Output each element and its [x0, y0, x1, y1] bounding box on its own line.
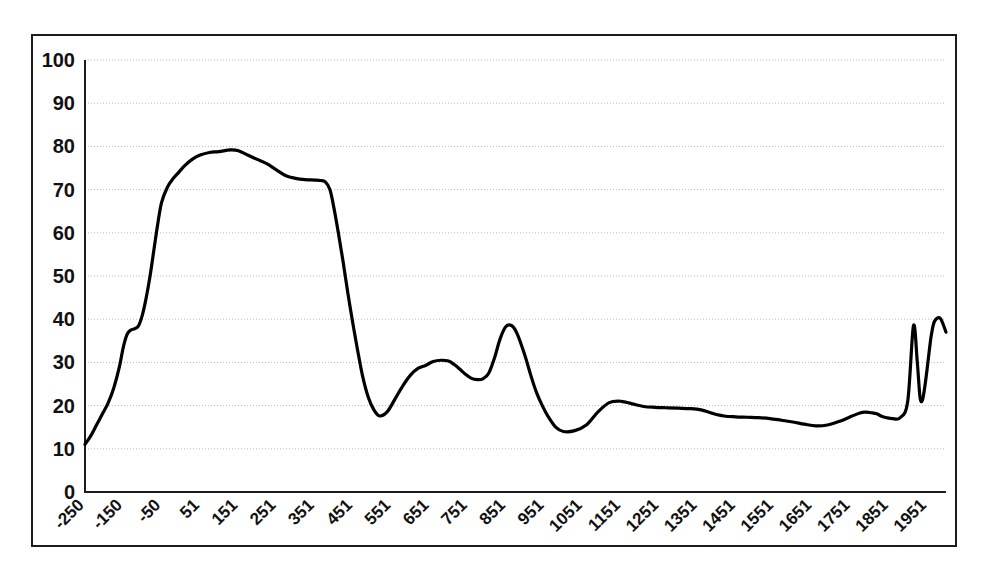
y-tick-label-10: 10 — [53, 438, 75, 460]
x-tick-label-151: 151 — [208, 495, 241, 528]
x-tick-label--250: -250 — [50, 495, 87, 532]
x-tick-label-251: 251 — [246, 495, 279, 528]
y-tick-label-60: 60 — [53, 222, 75, 244]
x-tick-label-1151: 1151 — [584, 495, 624, 535]
x-tick-label-1051: 1051 — [545, 495, 585, 535]
x-tick-label-651: 651 — [399, 495, 432, 528]
x-tick-label--150: -150 — [89, 495, 126, 532]
x-tick-label-1851: 1851 — [852, 495, 892, 535]
y-tick-label-90: 90 — [53, 92, 75, 114]
x-tick-labels-group: -250-150-5051151251351451551651751851951… — [50, 495, 930, 535]
x-tick-label-1451: 1451 — [699, 495, 739, 535]
x-tick-label-751: 751 — [437, 495, 470, 528]
x-tick-label-951: 951 — [514, 495, 547, 528]
x-tick-label-451: 451 — [323, 495, 356, 528]
x-tick-label-1651: 1651 — [775, 495, 815, 535]
x-tick-label-551: 551 — [361, 495, 394, 528]
y-tick-label-50: 50 — [53, 265, 75, 287]
y-tick-label-70: 70 — [53, 179, 75, 201]
line-chart: 0102030405060708090100 -250-150-50511512… — [33, 36, 955, 545]
x-tick-label-1251: 1251 — [622, 495, 662, 535]
x-tick-label-1751: 1751 — [813, 495, 853, 535]
y-tick-label-30: 30 — [53, 351, 75, 373]
x-tick-label-1551: 1551 — [737, 495, 777, 535]
y-tick-label-40: 40 — [53, 308, 75, 330]
chart-page: 0102030405060708090100 -250-150-50511512… — [0, 0, 986, 574]
series-line-series-1 — [85, 150, 946, 445]
y-tick-label-80: 80 — [53, 135, 75, 157]
x-tick-label-351: 351 — [284, 495, 317, 528]
x-tick-label-1351: 1351 — [660, 495, 700, 535]
x-tick-label-51: 51 — [176, 495, 203, 522]
chart-outer-frame: 0102030405060708090100 -250-150-50511512… — [31, 34, 957, 547]
gridlines-group — [85, 60, 946, 449]
y-tick-labels-group: 0102030405060708090100 — [42, 49, 75, 503]
x-tick-label-1951: 1951 — [890, 495, 930, 535]
y-tick-label-100: 100 — [42, 49, 75, 71]
y-tick-label-20: 20 — [53, 395, 75, 417]
data-series-group — [85, 150, 946, 445]
x-tick-label--50: -50 — [134, 495, 165, 526]
x-tick-label-851: 851 — [476, 495, 509, 528]
